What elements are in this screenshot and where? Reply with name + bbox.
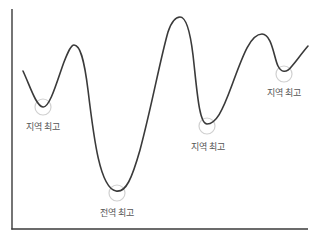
local-minimum-label-3: 지역 최고 <box>267 86 300 99</box>
loss-curve <box>23 17 308 191</box>
global-minimum-circle <box>109 185 125 201</box>
local-minimum-circle-2 <box>199 118 215 134</box>
local-minimum-label-1: 지역 최고 <box>26 120 59 133</box>
global-minimum-label: 전역 최고 <box>100 206 133 219</box>
local-minimum-label-2: 지역 최고 <box>191 140 224 153</box>
